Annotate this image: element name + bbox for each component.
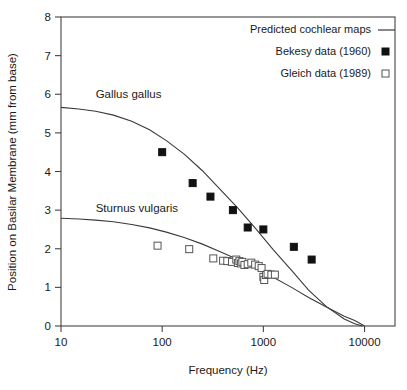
x-tick-label-10000: 10000 xyxy=(349,336,381,348)
plot-border xyxy=(61,17,395,326)
y-tick-label-7: 7 xyxy=(45,50,51,62)
annotation-1: Sturnus vulgaris xyxy=(96,202,179,214)
legend-marker-open-square xyxy=(382,70,389,77)
data-point-bekesy-7 xyxy=(308,256,315,263)
cochlear-map-chart: 10100100010000 012345678 Gallus gallusSt… xyxy=(0,0,407,390)
x-axis-ticks xyxy=(61,326,365,332)
x-tick-label-10: 10 xyxy=(55,336,68,348)
y-tick-label-5: 5 xyxy=(45,127,51,139)
data-point-bekesy-5 xyxy=(260,226,267,233)
y-axis-tick-labels: 012345678 xyxy=(45,11,52,332)
chart-svg: 10100100010000 012345678 Gallus gallusSt… xyxy=(0,0,407,390)
legend-label-predicted-maps: Predicted cochlear maps xyxy=(250,23,372,35)
data-point-bekesy-4 xyxy=(244,224,251,231)
data-point-bekesy-0 xyxy=(159,149,166,156)
data-point-gleich-1 xyxy=(186,246,193,253)
curve-series-1 xyxy=(61,218,365,326)
data-point-gleich-0 xyxy=(154,242,161,249)
data-point-gleich-22 xyxy=(271,271,278,278)
x-axis-tick-labels: 10100100010000 xyxy=(55,336,381,348)
y-axis-title: Position on Basilar Membrane (mm from ba… xyxy=(6,53,18,291)
legend-marker-filled-square xyxy=(382,48,389,55)
y-tick-label-3: 3 xyxy=(45,204,51,216)
y-tick-label-6: 6 xyxy=(45,88,51,100)
chart-legend: Predicted cochlear maps Bekesy data (196… xyxy=(250,23,395,79)
data-point-bekesy-1 xyxy=(189,180,196,187)
x-tick-label-1000: 1000 xyxy=(251,336,277,348)
data-point-bekesy-3 xyxy=(229,207,236,214)
y-tick-label-1: 1 xyxy=(45,281,51,293)
data-point-bekesy-6 xyxy=(290,243,297,250)
x-axis-title: Frequency (Hz) xyxy=(188,364,267,376)
y-tick-label-0: 0 xyxy=(45,320,51,332)
y-tick-label-4: 4 xyxy=(45,166,52,178)
legend-label-bekesy: Bekesy data (1960) xyxy=(276,45,371,57)
data-point-bekesy-2 xyxy=(207,193,214,200)
y-axis-ticks xyxy=(55,17,61,326)
legend-label-gleich: Gleich data (1989) xyxy=(281,67,372,79)
data-points xyxy=(154,149,315,284)
y-tick-label-8: 8 xyxy=(45,11,51,23)
y-tick-label-2: 2 xyxy=(45,243,51,255)
plot-frame xyxy=(61,17,395,326)
predicted-curves xyxy=(61,107,365,326)
x-tick-label-100: 100 xyxy=(153,336,172,348)
annotation-0: Gallus gallus xyxy=(96,88,162,100)
curve-series-0 xyxy=(61,107,362,326)
data-point-gleich-2 xyxy=(210,255,217,262)
